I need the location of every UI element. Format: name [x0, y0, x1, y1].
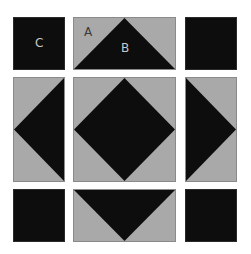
block-bottom-middle — [73, 189, 176, 242]
block-bottom-left — [13, 189, 65, 242]
block-middle-left — [13, 77, 65, 182]
block-top-middle: A B — [73, 17, 176, 70]
triangle-down-shape — [74, 190, 175, 241]
block-center — [73, 77, 176, 182]
label-c: C — [35, 37, 43, 49]
triangle-right-shape — [186, 78, 236, 181]
block-top-right — [185, 17, 237, 70]
triangle-left-shape — [14, 78, 64, 181]
block-bottom-right — [185, 189, 237, 242]
block-top-left: C — [13, 17, 65, 70]
diamond-shape — [74, 78, 175, 181]
label-b: B — [121, 42, 129, 54]
block-middle-right — [185, 77, 237, 182]
label-a: A — [84, 26, 92, 38]
